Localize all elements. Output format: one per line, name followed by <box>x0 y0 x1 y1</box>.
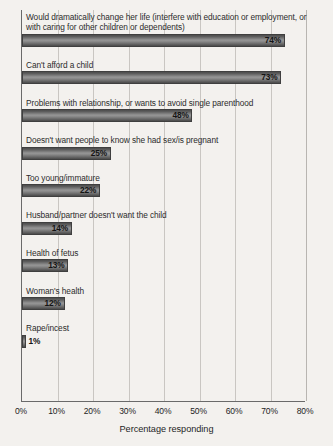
gridline-80 <box>306 10 307 401</box>
bar-value-label: 25% <box>91 147 107 160</box>
x-tick-50: 50% <box>190 406 207 416</box>
chart-category-row: Would dramatically change her life (inte… <box>22 12 306 46</box>
bar-chart: Would dramatically change her life (inte… <box>0 0 333 446</box>
plot-area: Would dramatically change her life (inte… <box>21 10 305 402</box>
category-label: Too young/immature <box>26 173 100 183</box>
chart-category-row: Health of fetus13% <box>22 248 306 272</box>
category-label: Doesn't want people to know she had sex/… <box>26 135 218 145</box>
bar-value-label: 13% <box>48 259 64 272</box>
bar-value-label: 22% <box>80 184 96 197</box>
bar <box>22 34 285 47</box>
bar-value-label: 14% <box>52 222 68 235</box>
category-label: Woman's health <box>26 286 84 296</box>
chart-category-row: Doesn't want people to know she had sex/… <box>22 135 306 159</box>
bar-value-label: 48% <box>172 109 188 122</box>
chart-category-row: Rape/incest1% <box>22 323 306 347</box>
x-tick-80: 80% <box>297 406 314 416</box>
x-tick-40: 40% <box>155 406 172 416</box>
category-label: Rape/incest <box>26 323 69 333</box>
x-tick-0: 0% <box>15 406 27 416</box>
x-tick-60: 60% <box>226 406 243 416</box>
chart-category-row: Woman's health12% <box>22 286 306 310</box>
x-tick-20: 20% <box>84 406 101 416</box>
category-label: Husband/partner doesn't want the child <box>26 210 167 220</box>
bar <box>22 109 192 122</box>
x-tick-70: 70% <box>261 406 278 416</box>
x-axis-title: Percentage responding <box>0 424 333 434</box>
category-label: Problems with relationship, or wants to … <box>26 98 253 108</box>
chart-category-row: Too young/immature22% <box>22 173 306 197</box>
bar-value-label: 1% <box>29 335 41 348</box>
bar <box>22 71 281 84</box>
chart-category-row: Husband/partner doesn't want the child14… <box>22 210 306 234</box>
category-label: Health of fetus <box>26 248 78 258</box>
bar-value-label: 73% <box>261 71 277 84</box>
bar-value-label: 74% <box>265 34 281 47</box>
x-tick-30: 30% <box>119 406 136 416</box>
x-tick-10: 10% <box>48 406 65 416</box>
category-label: Would dramatically change her life (inte… <box>26 12 308 33</box>
bar <box>22 335 26 348</box>
category-label: Can't afford a child <box>26 60 93 70</box>
chart-category-row: Can't afford a child73% <box>22 60 306 84</box>
bar-value-label: 12% <box>45 297 61 310</box>
chart-category-row: Problems with relationship, or wants to … <box>22 98 306 122</box>
